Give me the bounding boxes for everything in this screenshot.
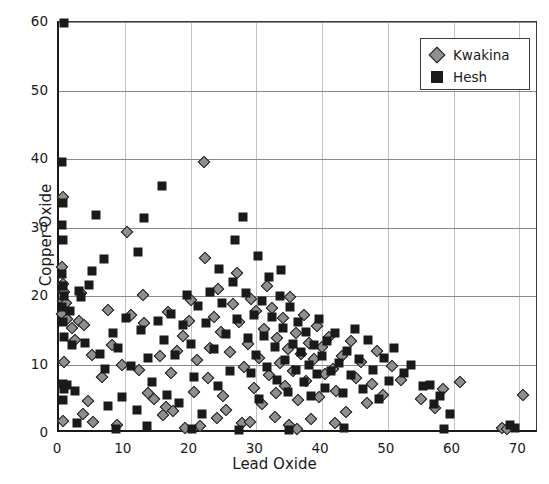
point-hesh	[285, 426, 294, 435]
point-hesh	[231, 235, 240, 244]
point-hesh	[99, 255, 108, 264]
point-hesh	[133, 248, 142, 257]
point-hesh	[58, 270, 67, 279]
point-kwakina	[243, 416, 256, 429]
point-hesh	[87, 267, 96, 276]
point-hesh	[232, 315, 241, 324]
point-hesh	[268, 312, 277, 321]
point-hesh	[399, 368, 408, 377]
point-hesh	[148, 378, 157, 387]
point-hesh	[85, 281, 94, 290]
legend-item-kwakina: Kwakina	[430, 44, 529, 66]
point-hesh	[343, 346, 352, 355]
point-hesh	[335, 359, 344, 368]
point-hesh	[170, 350, 179, 359]
point-hesh	[153, 316, 162, 325]
point-hesh	[340, 423, 349, 432]
point-kwakina	[224, 346, 237, 359]
point-hesh	[260, 331, 269, 340]
square-marker-icon	[430, 70, 444, 84]
point-hesh	[222, 330, 231, 339]
point-kwakina	[305, 413, 318, 426]
point-hesh	[270, 342, 279, 351]
point-hesh	[68, 341, 77, 350]
x-tick-label: 0	[53, 440, 62, 456]
point-hesh	[144, 353, 153, 362]
point-hesh	[312, 370, 321, 379]
point-hesh	[283, 387, 292, 396]
point-kwakina	[154, 350, 167, 363]
point-hesh	[58, 157, 67, 166]
point-hesh	[157, 182, 166, 191]
point-hesh	[58, 282, 67, 291]
point-hesh	[281, 356, 290, 365]
diamond-marker-icon	[430, 48, 444, 62]
point-hesh	[198, 409, 207, 418]
point-hesh	[278, 323, 287, 332]
point-hesh	[262, 363, 271, 372]
point-hesh	[277, 265, 286, 274]
point-hesh	[239, 212, 248, 221]
point-hesh	[103, 401, 112, 410]
point-hesh	[235, 426, 244, 435]
point-hesh	[358, 385, 367, 394]
point-hesh	[132, 405, 141, 414]
point-kwakina	[268, 410, 281, 423]
point-hesh	[257, 297, 266, 306]
point-hesh	[254, 394, 263, 403]
point-kwakina	[199, 251, 212, 264]
x-tick-label: 10	[114, 440, 131, 456]
point-hesh	[304, 360, 313, 369]
point-kwakina	[87, 416, 100, 429]
point-hesh	[252, 350, 261, 359]
y-axis-title: Copper Oxide	[37, 145, 55, 325]
point-kwakina	[454, 376, 467, 389]
point-kwakina	[414, 392, 427, 405]
point-kwakina	[57, 414, 70, 427]
point-hesh	[160, 335, 169, 344]
point-hesh	[511, 423, 520, 432]
point-hesh	[215, 264, 224, 273]
point-hesh	[143, 422, 152, 431]
point-hesh	[58, 396, 67, 405]
x-tick-label: 30	[246, 440, 263, 456]
point-hesh	[77, 293, 86, 302]
point-hesh	[118, 393, 127, 402]
point-hesh	[307, 392, 316, 401]
point-hesh	[253, 252, 262, 261]
point-kwakina	[58, 356, 71, 369]
point-hesh	[339, 389, 348, 398]
point-hesh	[127, 361, 136, 370]
chart-legend: Kwakina Hesh	[420, 38, 530, 90]
point-hesh	[273, 375, 282, 384]
gridline-vertical	[191, 22, 192, 430]
point-hesh	[136, 326, 145, 335]
point-hesh	[331, 328, 340, 337]
point-hesh	[58, 318, 67, 327]
point-hesh	[122, 313, 131, 322]
point-hesh	[346, 371, 355, 380]
point-hesh	[320, 383, 329, 392]
point-hesh	[244, 334, 253, 343]
point-hesh	[291, 365, 300, 374]
point-hesh	[190, 372, 199, 381]
point-hesh	[70, 386, 79, 395]
point-kwakina	[289, 327, 302, 340]
point-kwakina	[101, 303, 114, 316]
point-hesh	[436, 392, 445, 401]
y-tick-label: 0	[14, 424, 48, 440]
point-hesh	[294, 318, 303, 327]
point-hesh	[178, 320, 187, 329]
point-kwakina	[220, 403, 233, 416]
point-hesh	[91, 211, 100, 220]
point-hesh	[275, 292, 284, 301]
point-hesh	[374, 394, 383, 403]
point-kwakina	[247, 381, 260, 394]
point-hesh	[202, 319, 211, 328]
point-hesh	[241, 289, 250, 298]
point-hesh	[65, 307, 74, 316]
point-hesh	[182, 290, 191, 299]
point-hesh	[310, 341, 319, 350]
x-tick-label: 70	[509, 440, 526, 456]
point-hesh	[440, 424, 449, 433]
